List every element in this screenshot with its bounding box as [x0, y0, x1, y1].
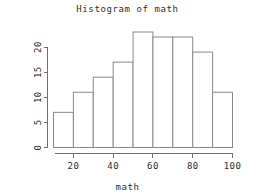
x-tick-label: 20: [68, 161, 80, 171]
y-tick-label: 10: [33, 91, 43, 103]
histogram-bar: [113, 62, 133, 147]
x-tick-label: 80: [187, 161, 199, 171]
y-tick-label: 5: [33, 119, 43, 125]
histogram-bar: [193, 52, 213, 147]
x-axis-title: math: [0, 182, 255, 192]
histogram-bar: [153, 37, 173, 147]
histogram-bar: [93, 77, 113, 147]
y-tick-label: 15: [33, 66, 43, 78]
chart-canvas: 20406080100 05101520: [0, 0, 255, 195]
x-tick-label: 60: [147, 161, 159, 171]
x-tick-label: 40: [107, 161, 119, 171]
histogram-bar: [213, 92, 233, 147]
histogram-bar: [54, 112, 74, 147]
histogram-bar: [133, 32, 153, 148]
y-tick-label: 20: [33, 41, 43, 53]
bars-group: [54, 32, 233, 148]
histogram-plot: Histogram of math 20406080100 05101520 F…: [0, 0, 255, 195]
x-tick-label: 100: [224, 161, 241, 171]
histogram-bar: [73, 92, 93, 147]
x-axis-ticks: 20406080100: [68, 154, 242, 171]
histogram-bar: [173, 37, 193, 147]
y-tick-label: 0: [33, 145, 43, 151]
y-axis-ticks: 05101520: [33, 41, 48, 150]
